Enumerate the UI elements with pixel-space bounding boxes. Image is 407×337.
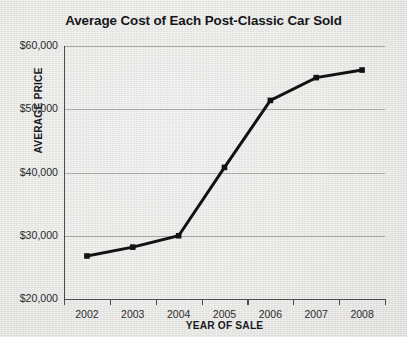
y-tick-label: $20,000 (0, 292, 58, 304)
data-point-marker (313, 75, 319, 81)
x-tick-label: 2004 (156, 308, 202, 320)
x-tick-mark (156, 299, 157, 305)
chart-page: Average Cost of Each Post-Classic Car So… (0, 0, 407, 337)
y-tick-label: $50,000 (0, 102, 58, 114)
x-axis-line (64, 299, 385, 300)
x-tick-mark (293, 299, 294, 305)
plot-area: 2002200320042005200620072008 (64, 46, 385, 299)
y-tick-label: $40,000 (0, 166, 58, 178)
series-polyline (87, 70, 362, 256)
x-tick-mark (339, 299, 340, 305)
x-tick-label: 2006 (247, 308, 293, 320)
x-tick-label: 2007 (293, 308, 339, 320)
x-tick-label: 2003 (110, 308, 156, 320)
y-tick-label: $30,000 (0, 229, 58, 241)
data-point-marker (359, 67, 365, 73)
chart-title: Average Cost of Each Post-Classic Car So… (0, 13, 407, 28)
x-tick-mark (110, 299, 111, 305)
x-tick-mark (64, 299, 65, 305)
data-point-marker (130, 244, 136, 250)
data-point-marker (268, 98, 274, 104)
x-tick-label: 2008 (339, 308, 385, 320)
x-axis-title: YEAR OF SALE (64, 320, 385, 331)
data-point-marker (176, 233, 182, 239)
x-tick-mark (202, 299, 203, 305)
x-tick-mark (385, 299, 386, 305)
series-marker-group (84, 67, 365, 259)
y-tick-label: $60,000 (0, 39, 58, 51)
x-tick-mark (247, 299, 248, 305)
x-tick-label: 2002 (64, 308, 110, 320)
data-point-marker (84, 253, 90, 259)
x-tick-label: 2005 (202, 308, 248, 320)
series-line-chart (64, 46, 385, 299)
data-point-marker (222, 165, 228, 171)
